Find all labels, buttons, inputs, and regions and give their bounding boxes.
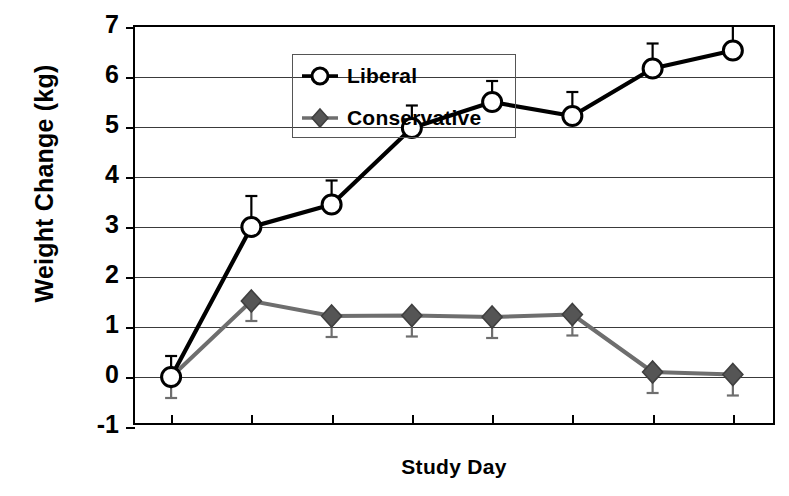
y-tick-label: 2 bbox=[77, 262, 119, 287]
y-tick-label: 5 bbox=[77, 112, 119, 137]
data-point bbox=[482, 306, 502, 328]
legend-label-liberal: Liberal bbox=[347, 64, 417, 88]
y-tick-mark bbox=[126, 277, 135, 279]
plot-area: Liberal Conservative bbox=[133, 25, 775, 425]
y-tick-label: -1 bbox=[77, 412, 119, 437]
data-point bbox=[563, 107, 582, 126]
data-point bbox=[643, 59, 662, 78]
y-tick-label: 4 bbox=[77, 162, 119, 187]
y-tick-mark bbox=[126, 177, 135, 179]
y-tick-label: 1 bbox=[77, 312, 119, 337]
chart-legend: Liberal Conservative bbox=[292, 54, 516, 138]
y-tick-mark bbox=[126, 77, 135, 79]
data-point bbox=[723, 364, 743, 386]
data-point bbox=[643, 361, 663, 383]
data-point bbox=[322, 305, 342, 327]
y-tick-label: 0 bbox=[77, 362, 119, 387]
legend-item-conservative: Conservative bbox=[293, 97, 515, 139]
y-tick-label: 6 bbox=[77, 62, 119, 87]
y-axis-title: Weight Change (kg) bbox=[31, 44, 58, 324]
data-point bbox=[402, 305, 422, 327]
data-point bbox=[242, 218, 261, 237]
data-point bbox=[562, 304, 582, 326]
data-point bbox=[723, 41, 742, 60]
y-tick-label: 3 bbox=[77, 212, 119, 237]
y-tick-label: 7 bbox=[77, 12, 119, 37]
y-tick-mark bbox=[126, 377, 135, 379]
filled-diamond-marker-icon bbox=[293, 97, 347, 139]
y-tick-mark bbox=[126, 27, 135, 29]
x-axis-title: Study Day bbox=[133, 455, 775, 479]
y-tick-mark bbox=[126, 427, 135, 429]
data-point bbox=[322, 195, 341, 214]
open-circle-marker-icon bbox=[293, 55, 347, 97]
data-point bbox=[162, 368, 181, 387]
chart-figure: Weight Change (kg) Study Day -101234567 … bbox=[0, 0, 789, 496]
y-tick-mark bbox=[126, 227, 135, 229]
legend-label-conservative: Conservative bbox=[347, 106, 481, 130]
y-tick-mark bbox=[126, 327, 135, 329]
y-tick-mark bbox=[126, 127, 135, 129]
series-conservative bbox=[161, 290, 743, 398]
legend-item-liberal: Liberal bbox=[293, 55, 515, 97]
